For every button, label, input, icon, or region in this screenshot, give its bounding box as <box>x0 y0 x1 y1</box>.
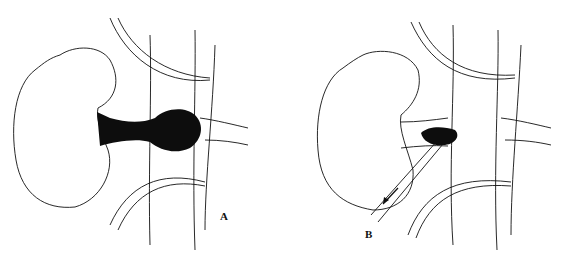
panel-label-b: B <box>365 228 372 240</box>
illustration-b <box>283 0 567 261</box>
thrombus-remnant <box>421 127 457 145</box>
arrow-icon <box>383 188 398 204</box>
thrombus <box>97 109 201 151</box>
illustration-a <box>0 0 283 261</box>
panel-a: A <box>0 0 283 261</box>
panel-label-a: A <box>220 210 228 222</box>
panel-b: B <box>283 0 567 261</box>
